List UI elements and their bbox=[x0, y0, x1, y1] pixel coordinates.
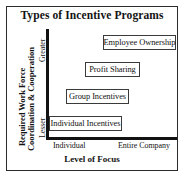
incentive-programs-diagram: Types of Incentive Programs Required Wor… bbox=[0, 0, 186, 177]
chart-title: Types of Incentive Programs bbox=[10, 9, 174, 21]
x-axis-tick-entire-company: Entire Company bbox=[118, 141, 170, 150]
x-axis-line bbox=[46, 137, 177, 140]
node-group-incentives: Group Incentives bbox=[66, 89, 129, 104]
node-employee-ownership: Employee Ownership bbox=[103, 35, 176, 50]
node-individual-incentives: Individual Incentives bbox=[49, 116, 122, 131]
x-axis-tick-individual: Individual bbox=[53, 141, 85, 150]
y-axis-tick-lesser: Lesser bbox=[38, 118, 47, 138]
x-axis-title: Level of Focus bbox=[10, 154, 174, 164]
node-profit-sharing: Profit Sharing bbox=[85, 62, 140, 77]
y-axis-title-line-2: Coordination & Cooperation bbox=[26, 47, 36, 151]
y-axis-tick-greater: Greater bbox=[38, 39, 47, 62]
